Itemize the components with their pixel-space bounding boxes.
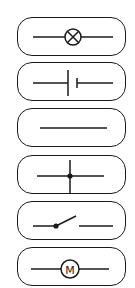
battery-icon	[18, 63, 125, 100]
lamp-icon	[18, 18, 125, 55]
battery-button[interactable]	[17, 62, 126, 101]
junction-button[interactable]	[17, 155, 126, 194]
switch-button[interactable]	[17, 201, 126, 240]
motor-symbol-label: M	[65, 264, 75, 277]
wire-button[interactable]	[17, 108, 126, 147]
wire-icon	[18, 109, 125, 146]
motor-button[interactable]: M	[17, 247, 126, 286]
switch-icon	[18, 202, 125, 239]
junction-icon	[18, 156, 125, 193]
lamp-button[interactable]	[17, 17, 126, 56]
motor-icon: M	[18, 248, 125, 285]
circuit-component-palette: M	[0, 0, 135, 288]
